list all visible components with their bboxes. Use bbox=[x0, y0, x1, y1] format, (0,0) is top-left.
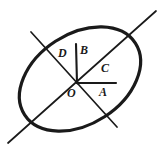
label-a: A bbox=[99, 86, 107, 98]
label-o: O bbox=[67, 87, 76, 99]
origin-point bbox=[76, 81, 79, 84]
ellipse-diagram-svg bbox=[0, 0, 163, 150]
label-d: D bbox=[58, 47, 67, 59]
label-c: C bbox=[101, 62, 109, 74]
ray-b-line bbox=[76, 44, 77, 83]
figure-caption bbox=[0, 140, 163, 150]
label-b: B bbox=[80, 44, 88, 56]
figure-container: D B C A O bbox=[0, 0, 163, 150]
ray-d-line bbox=[31, 32, 117, 127]
